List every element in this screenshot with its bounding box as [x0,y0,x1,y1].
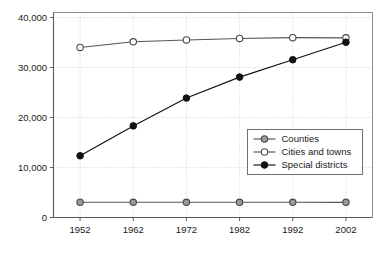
x-axis-ticks: 195219621972198219922002 [70,218,357,235]
data-point-2-0 [77,153,84,160]
gridlines [54,13,373,218]
series-line-1 [80,38,346,48]
legend-marker-0 [261,136,267,142]
x-tick-label-1: 1962 [123,224,144,235]
legend-label-1: Cities and towns [282,146,352,157]
y-tick-label-2: 20,000 [18,112,47,123]
data-point-0-0 [77,199,83,205]
legend-marker-2 [261,162,268,169]
data-point-1-4 [290,34,296,40]
data-point-0-5 [343,199,349,205]
data-point-2-4 [289,56,296,63]
series-counties [77,199,349,205]
data-point-1-1 [130,39,136,45]
data-point-2-3 [236,74,243,81]
y-tick-label-4: 40,000 [18,12,47,23]
legend-label-0: Counties [282,133,320,144]
legend-label-2: Special districts [282,159,348,170]
x-tick-label-0: 1952 [70,224,91,235]
legend: CountiesCities and townsSpecial district… [248,130,363,175]
y-tick-label-1: 10,000 [18,162,47,173]
data-point-2-2 [183,95,190,102]
data-point-0-3 [236,199,242,205]
line-chart: 010,00020,00030,00040,000195219621972198… [0,0,389,255]
x-tick-label-2: 1972 [176,224,197,235]
y-tick-label-3: 30,000 [18,62,47,73]
data-point-1-3 [236,35,242,41]
data-point-1-0 [77,44,83,50]
y-axis-ticks: 010,00020,00030,00040,000 [18,12,54,223]
data-point-1-2 [183,37,189,43]
data-point-0-2 [183,199,189,205]
x-tick-label-3: 1982 [229,224,250,235]
x-tick-label-4: 1992 [282,224,303,235]
x-tick-label-5: 2002 [335,224,356,235]
data-point-0-1 [130,199,136,205]
data-point-2-1 [130,123,137,130]
plot-frame [54,13,373,218]
series-cities-and-towns [77,34,349,50]
y-tick-label-0: 0 [42,212,47,223]
data-point-2-5 [343,39,350,46]
data-point-0-4 [290,199,296,205]
legend-marker-1 [261,149,267,155]
chart-canvas: 010,00020,00030,00040,000195219621972198… [0,0,389,255]
